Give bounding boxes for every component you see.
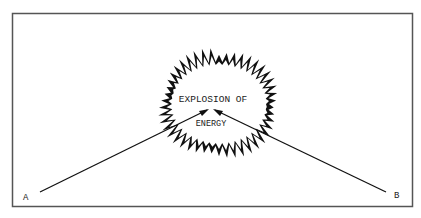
center-text-line2: ENERGY xyxy=(196,119,227,129)
center-text-line1: EXPLOSION OF xyxy=(179,94,248,105)
arrow-from-b xyxy=(213,109,386,192)
explosion-diagram: EXPLOSION OF ENERGY A B xyxy=(0,0,421,218)
point-a-label: A xyxy=(23,193,29,203)
arrow-from-a xyxy=(40,109,209,192)
point-b-label: B xyxy=(394,191,400,201)
